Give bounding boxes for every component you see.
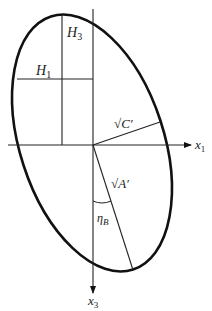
- ellipse-outline: [0, 0, 202, 292]
- ellipse-diagram: H3 H1 √C′ √A′ ηB x1 x3: [0, 0, 212, 311]
- h3-label: H3: [66, 25, 82, 42]
- sqrt-a-line: [93, 145, 133, 270]
- eta-b-angle-arc: [93, 201, 111, 203]
- h1-label: H1: [35, 63, 51, 80]
- x1-axis-label: x1: [194, 137, 205, 154]
- sqrt-a-label: √A′: [111, 176, 129, 191]
- x3-axis-label: x3: [87, 293, 99, 310]
- sqrt-c-label: √C′: [114, 116, 133, 131]
- eta-b-label: ηB: [97, 211, 109, 227]
